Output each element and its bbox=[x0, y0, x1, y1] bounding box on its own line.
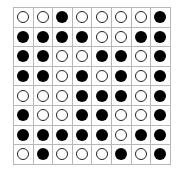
board-cell-r4-c6[interactable] bbox=[112, 67, 132, 87]
filled-circle-icon bbox=[154, 129, 166, 141]
filled-circle-icon bbox=[154, 109, 166, 121]
board-cell-r6-c2[interactable] bbox=[34, 106, 54, 126]
hollow-circle-icon bbox=[115, 31, 127, 43]
hollow-circle-icon bbox=[96, 148, 108, 160]
board-cell-r2-c6[interactable] bbox=[112, 28, 132, 48]
board-cell-r8-c8[interactable] bbox=[151, 145, 171, 165]
board-cell-r2-c1[interactable] bbox=[14, 28, 34, 48]
filled-circle-icon bbox=[17, 31, 29, 43]
board-cell-r3-c1[interactable] bbox=[14, 47, 34, 67]
filled-circle-icon bbox=[115, 90, 127, 102]
board-cell-r1-c3[interactable] bbox=[53, 8, 73, 28]
hollow-circle-icon bbox=[56, 109, 68, 121]
board-cell-r1-c7[interactable] bbox=[132, 8, 152, 28]
board-cell-r2-c4[interactable] bbox=[73, 28, 93, 48]
board-cell-r3-c6[interactable] bbox=[112, 47, 132, 67]
hollow-circle-icon bbox=[96, 11, 108, 23]
board-cell-r4-c7[interactable] bbox=[132, 67, 152, 87]
filled-circle-icon bbox=[37, 31, 49, 43]
hollow-circle-icon bbox=[115, 11, 127, 23]
board-cell-r2-c5[interactable] bbox=[92, 28, 112, 48]
board-cell-r4-c2[interactable] bbox=[34, 67, 54, 87]
hollow-circle-icon bbox=[37, 11, 49, 23]
board-cell-r8-c5[interactable] bbox=[92, 145, 112, 165]
filled-circle-icon bbox=[154, 11, 166, 23]
board-cell-r5-c3[interactable] bbox=[53, 86, 73, 106]
filled-circle-icon bbox=[17, 50, 29, 62]
board-cell-r2-c2[interactable] bbox=[34, 28, 54, 48]
board-cell-r1-c1[interactable] bbox=[14, 8, 34, 28]
filled-circle-icon bbox=[115, 148, 127, 160]
board-cell-r7-c5[interactable] bbox=[92, 126, 112, 146]
hollow-circle-icon bbox=[96, 70, 108, 82]
board-cell-r1-c2[interactable] bbox=[34, 8, 54, 28]
filled-circle-icon bbox=[76, 31, 88, 43]
board-cell-r7-c7[interactable] bbox=[132, 126, 152, 146]
board-cell-r7-c1[interactable] bbox=[14, 126, 34, 146]
board-cell-r4-c5[interactable] bbox=[92, 67, 112, 87]
board-cell-r4-c3[interactable] bbox=[53, 67, 73, 87]
board-cell-r6-c1[interactable] bbox=[14, 106, 34, 126]
board-cell-r4-c4[interactable] bbox=[73, 67, 93, 87]
board-cell-r2-c3[interactable] bbox=[53, 28, 73, 48]
board-cell-r8-c4[interactable] bbox=[73, 145, 93, 165]
hollow-circle-icon bbox=[17, 148, 29, 160]
board-cell-r8-c1[interactable] bbox=[14, 145, 34, 165]
board-cell-r7-c2[interactable] bbox=[34, 126, 54, 146]
board-cell-r3-c3[interactable] bbox=[53, 47, 73, 67]
board-cell-r5-c8[interactable] bbox=[151, 86, 171, 106]
filled-circle-icon bbox=[76, 109, 88, 121]
board-cell-r5-c6[interactable] bbox=[112, 86, 132, 106]
board-cell-r8-c7[interactable] bbox=[132, 145, 152, 165]
board-cell-r8-c3[interactable] bbox=[53, 145, 73, 165]
board-cell-r1-c4[interactable] bbox=[73, 8, 93, 28]
board-cell-r6-c5[interactable] bbox=[92, 106, 112, 126]
board-cell-r5-c2[interactable] bbox=[34, 86, 54, 106]
board-cell-r8-c6[interactable] bbox=[112, 145, 132, 165]
board-cell-r5-c1[interactable] bbox=[14, 86, 34, 106]
board-cell-r6-c4[interactable] bbox=[73, 106, 93, 126]
hollow-circle-icon bbox=[56, 50, 68, 62]
filled-circle-icon bbox=[154, 50, 166, 62]
filled-circle-icon bbox=[56, 31, 68, 43]
filled-circle-icon bbox=[96, 90, 108, 102]
board-cell-r4-c8[interactable] bbox=[151, 67, 171, 87]
filled-circle-icon bbox=[37, 50, 49, 62]
board-cell-r3-c4[interactable] bbox=[73, 47, 93, 67]
board-cell-r6-c6[interactable] bbox=[112, 106, 132, 126]
hollow-circle-icon bbox=[17, 11, 29, 23]
board-cell-r6-c3[interactable] bbox=[53, 106, 73, 126]
board-cell-r7-c3[interactable] bbox=[53, 126, 73, 146]
hollow-circle-icon bbox=[37, 90, 49, 102]
board-cell-r3-c2[interactable] bbox=[34, 47, 54, 67]
hollow-circle-icon bbox=[135, 50, 147, 62]
game-board bbox=[13, 7, 171, 165]
filled-circle-icon bbox=[135, 31, 147, 43]
board-cell-r7-c4[interactable] bbox=[73, 126, 93, 146]
board-cell-r2-c8[interactable] bbox=[151, 28, 171, 48]
filled-circle-icon bbox=[135, 129, 147, 141]
hollow-circle-icon bbox=[135, 70, 147, 82]
board-cell-r8-c2[interactable] bbox=[34, 145, 54, 165]
board-cell-r1-c6[interactable] bbox=[112, 8, 132, 28]
board-cell-r3-c7[interactable] bbox=[132, 47, 152, 67]
board-cell-r2-c7[interactable] bbox=[132, 28, 152, 48]
board-cell-r3-c8[interactable] bbox=[151, 47, 171, 67]
board-cell-r1-c5[interactable] bbox=[92, 8, 112, 28]
hollow-circle-icon bbox=[37, 109, 49, 121]
board-cell-r7-c8[interactable] bbox=[151, 126, 171, 146]
filled-circle-icon bbox=[37, 148, 49, 160]
filled-circle-icon bbox=[96, 129, 108, 141]
board-cell-r4-c1[interactable] bbox=[14, 67, 34, 87]
filled-circle-icon bbox=[17, 70, 29, 82]
board-cell-r3-c5[interactable] bbox=[92, 47, 112, 67]
board-cell-r6-c7[interactable] bbox=[132, 106, 152, 126]
board-cell-r6-c8[interactable] bbox=[151, 106, 171, 126]
board-cell-r5-c5[interactable] bbox=[92, 86, 112, 106]
filled-circle-icon bbox=[154, 90, 166, 102]
board-cell-r1-c8[interactable] bbox=[151, 8, 171, 28]
board-cell-r5-c4[interactable] bbox=[73, 86, 93, 106]
board-cell-r7-c6[interactable] bbox=[112, 126, 132, 146]
board-cell-r5-c7[interactable] bbox=[132, 86, 152, 106]
filled-circle-icon bbox=[37, 70, 49, 82]
